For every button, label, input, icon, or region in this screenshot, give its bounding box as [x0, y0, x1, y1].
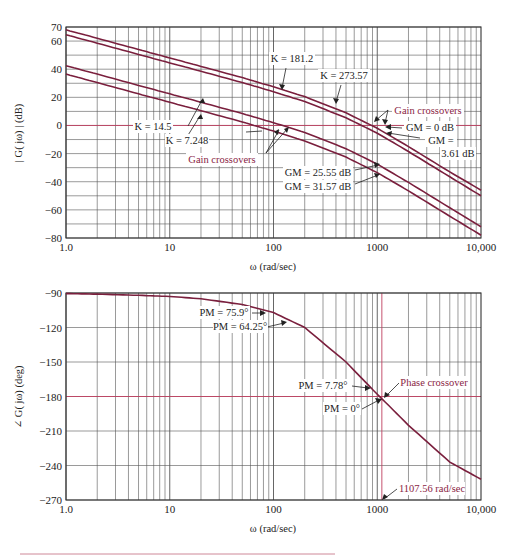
y-tick-label: −40 — [45, 176, 63, 188]
annotation-gm-25-55: GM = 25.55 dB — [285, 167, 352, 178]
y-tick-label: −120 — [39, 322, 62, 334]
y-tick-label: 20 — [51, 91, 63, 103]
x-tick-label: 100 — [265, 241, 282, 253]
magnitude-y-label: | G( jω) | (dB) — [13, 103, 25, 162]
y-tick-label: −210 — [39, 425, 62, 437]
annotation-phase-crossover: Phase crossover — [400, 377, 468, 388]
annotation-k-181-2: K = 181.2 — [271, 53, 313, 64]
annotation-crossover-frequency: 1107.56 rad/sec — [399, 483, 465, 494]
annotation-pm-0: PM = 0° — [324, 403, 360, 414]
x-tick-label: 1000 — [366, 503, 389, 515]
x-tick-label: 10 — [164, 241, 176, 253]
x-tick-label: 1.0 — [59, 503, 73, 515]
phase-y-label: ∠ G( jω) (deg) — [13, 365, 25, 429]
y-tick-label: −90 — [45, 287, 63, 299]
y-tick-label: 70 — [51, 21, 63, 33]
annotation-pm-75-9: PM = 75.9° — [200, 307, 249, 318]
x-tick-label: 10,000 — [466, 503, 497, 515]
annotation-gm-3-61-value: 3.61 dB — [441, 148, 474, 159]
x-tick-label: 10 — [164, 503, 176, 515]
magnitude-x-label: ω (rad/sec) — [250, 261, 297, 273]
y-tick-label: −180 — [39, 391, 62, 403]
annotation-pm-64-25: PM = 64.25° — [213, 321, 267, 332]
y-tick-label: −20 — [45, 148, 63, 160]
x-tick-label: 1000 — [366, 241, 389, 253]
y-tick-label: 60 — [51, 35, 63, 47]
annotation-gm-31-57: GM = 31.57 dB — [285, 181, 352, 192]
annotation-pm-7-78: PM = 7.78° — [299, 380, 348, 391]
y-tick-label: −240 — [39, 460, 62, 472]
phase-grid — [66, 293, 481, 500]
annotation-k-14-5: K = 14.5 — [134, 121, 171, 132]
annotation-gain-crossovers-high: Gain crossovers — [394, 105, 461, 116]
bode-plot: 706040200−20−40−60−801.010100100010,000 … — [0, 0, 515, 558]
phase-x-label: ω (rad/sec) — [250, 523, 297, 535]
annotation-gain-crossovers-low: Gain crossovers — [188, 154, 255, 165]
y-tick-label: 0 — [57, 119, 63, 131]
x-tick-label: 100 — [265, 503, 282, 515]
y-tick-label: 40 — [51, 63, 63, 75]
annotation-gm-0db: GM = 0 dB — [406, 122, 454, 133]
annotation-gm-3-61-label: GM = — [428, 135, 454, 146]
y-tick-label: −150 — [39, 356, 62, 368]
x-tick-label: 1.0 — [59, 241, 73, 253]
annotation-k-7-248: K = 7.248 — [166, 135, 208, 146]
y-tick-label: −60 — [45, 204, 63, 216]
annotation-k-273-57: K = 273.57 — [320, 70, 368, 81]
x-tick-label: 10,000 — [466, 241, 497, 253]
